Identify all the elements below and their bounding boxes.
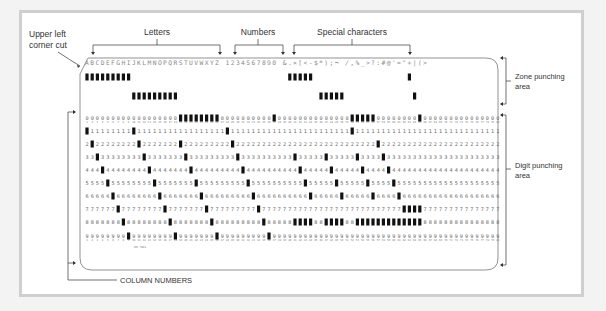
digit-label: 3	[377, 154, 380, 160]
column-number: 66	[423, 121, 427, 124]
column-number: 49	[335, 239, 339, 242]
printed-header-char: &	[283, 59, 287, 66]
column-number: 60	[392, 121, 396, 124]
digit-label: 3	[330, 154, 333, 160]
digit-label: 6	[153, 193, 156, 199]
digit-label: 6	[143, 193, 146, 199]
column-number: 46	[319, 121, 323, 124]
special-characters-label: Special characters	[317, 27, 387, 37]
digit-label: 2	[184, 141, 187, 147]
digit-label: 1	[371, 128, 374, 134]
digit-label: 6	[408, 193, 411, 199]
column-number: 57	[377, 239, 381, 242]
digit-label: 4	[91, 167, 94, 173]
digit-label: 5	[413, 180, 416, 186]
printed-header-char: ,	[350, 59, 354, 66]
letters-label: Letters	[144, 27, 170, 37]
printed-header-char: )	[324, 59, 328, 66]
digit-label: 5	[444, 180, 447, 186]
digit-label: 1	[475, 128, 478, 134]
digit-label: 3	[195, 154, 198, 160]
digit-label: 1	[293, 128, 296, 134]
column-number: 10	[132, 239, 136, 242]
punch-hole	[377, 219, 380, 226]
digit-label: 7	[382, 206, 385, 212]
digit-label: 5	[91, 180, 94, 186]
digit-label: 1	[143, 128, 146, 134]
digit-label: 6	[449, 193, 452, 199]
special-bracket-arrows-icon	[292, 52, 412, 55]
digit-label: 7	[345, 206, 348, 212]
column-number: 43	[304, 239, 308, 242]
digit-label: 1	[184, 128, 187, 134]
punch-hole	[122, 74, 125, 81]
digit-label: 1	[423, 128, 426, 134]
column-number: 61	[397, 121, 401, 124]
digit-label: 7	[293, 206, 296, 212]
column-number: 74	[465, 121, 469, 124]
digit-label: 1	[460, 128, 463, 134]
digit-label: 6	[236, 193, 239, 199]
digit-label: 3	[351, 154, 354, 160]
punch-hole	[153, 93, 156, 100]
printed-header-char: ¬	[335, 59, 339, 66]
digit-label: 2	[444, 141, 447, 147]
digit-label: 4	[434, 167, 437, 173]
punch-hole	[299, 167, 302, 174]
digit-label: 8	[221, 219, 224, 225]
printed-header-char: #	[382, 59, 386, 66]
printed-header-char: 8	[262, 59, 266, 66]
column-number: 42	[299, 239, 303, 242]
printed-header-char: "	[402, 59, 406, 66]
column-number: 52	[351, 239, 355, 242]
column-number: 72	[455, 239, 459, 242]
punch-hole	[418, 115, 421, 122]
digit-label: 4	[444, 167, 447, 173]
digit-label: 2	[392, 141, 395, 147]
digit-label: 3	[247, 154, 250, 160]
digit-label: 2	[195, 141, 198, 147]
digit-label: 3	[210, 154, 213, 160]
column-number: 54	[361, 239, 365, 242]
digit-label: 7	[179, 206, 182, 212]
digit-label: 4	[179, 167, 182, 173]
printed-header-char: <	[304, 59, 308, 66]
printed-header-char: ¤	[293, 59, 297, 66]
digit-label: 6	[496, 193, 499, 199]
column-number: 67	[429, 121, 433, 124]
punch-hole	[85, 128, 88, 135]
column-number: 57	[377, 121, 381, 124]
digit-label: 7	[236, 206, 239, 212]
digit-label: 4	[345, 167, 348, 173]
punch-hole	[325, 154, 328, 161]
printed-header-char: 2	[231, 59, 235, 66]
digit-label: 7	[377, 206, 380, 212]
digit-label: 2	[226, 141, 229, 147]
digit-label: 4	[314, 167, 317, 173]
digit-label: 7	[267, 206, 270, 212]
digit-label: 5	[163, 180, 166, 186]
digit-label: 6	[366, 193, 369, 199]
digit-label: 8	[189, 219, 192, 225]
digit-label: 2	[85, 141, 88, 147]
punched-card-diagram: Upper left corner cut Letters Numbers Sp…	[0, 0, 606, 311]
punch-hole	[408, 206, 411, 213]
printed-header-char: M	[148, 59, 152, 66]
column-number: 59	[387, 121, 391, 124]
digit-label: 2	[122, 141, 125, 147]
numbers-bracket	[235, 39, 283, 53]
printed-header-char: *	[319, 59, 323, 66]
digit-label: 5	[210, 180, 213, 186]
punch-hole	[210, 219, 213, 226]
digit-label: 4	[408, 167, 411, 173]
digit-label: 3	[169, 154, 172, 160]
digit-label: 1	[205, 128, 208, 134]
digit-label: 8	[215, 219, 218, 225]
printed-header-char: A	[85, 59, 89, 66]
column-number: 45	[314, 239, 318, 242]
digit-label: 6	[351, 193, 354, 199]
printed-header-char: %	[356, 59, 360, 66]
punch-hole	[169, 93, 172, 100]
punch-hole	[397, 219, 400, 226]
digit-label: 6	[101, 193, 104, 199]
